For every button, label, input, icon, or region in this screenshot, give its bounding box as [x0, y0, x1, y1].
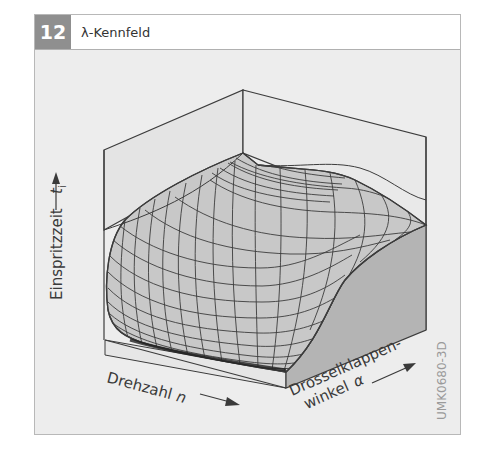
svg-text:i: i	[57, 185, 68, 188]
svg-text:Einspritzzeit: Einspritzzeit	[48, 208, 66, 300]
lambda-map-diagram: Einspritzzeit t i Drehzahl n Drosselklap…	[0, 0, 477, 465]
z-axis-label: Einspritzzeit t i	[48, 185, 68, 300]
svg-text:Drehzahl: Drehzahl	[105, 368, 174, 403]
x-axis-arrow-line	[200, 394, 230, 402]
x-axis-arrow-icon	[225, 397, 240, 406]
svg-text:n: n	[175, 387, 189, 407]
z-axis-arrow-icon	[52, 172, 60, 184]
y-axis-arrow-line	[372, 367, 408, 383]
figure-code: UMK0680-3D	[435, 341, 449, 420]
y-axis-arrow-icon	[403, 363, 416, 372]
svg-text:α: α	[350, 370, 366, 391]
svg-text:UMK0680-3D: UMK0680-3D	[435, 341, 449, 420]
x-axis-label: Drehzahl n	[105, 368, 188, 406]
